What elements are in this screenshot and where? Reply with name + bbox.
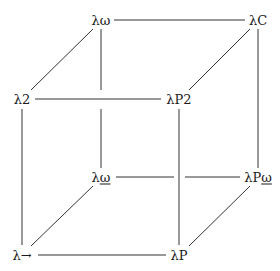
node-lambda-p-weak-omega: λPω (244, 171, 272, 184)
node-prefix: λ2 (14, 92, 31, 107)
node-lambda-arrow: λ→ (12, 249, 31, 262)
node-suffix: ω (100, 13, 111, 28)
node-prefix: λP (171, 248, 188, 263)
edge-lw-l2 (31, 29, 93, 90)
node-prefix: λ→ (12, 248, 31, 263)
edge-lPwu-lP (189, 186, 250, 246)
node-prefix: λC (249, 13, 267, 28)
node-lambda-p: λP (171, 249, 188, 262)
node-lambda-weak-omega: λω (92, 171, 111, 184)
node-prefix: λP (244, 170, 261, 185)
node-lambda-p2: λP2 (166, 93, 191, 106)
edge-lC-lP2 (189, 29, 250, 90)
node-lambda-2: λ2 (14, 93, 31, 106)
edge-lwu-lto (31, 186, 93, 246)
node-prefix: λP2 (166, 92, 191, 107)
cube-edges (0, 0, 280, 271)
node-lambda-c: λC (249, 14, 267, 27)
node-lambda-omega: λω (92, 14, 111, 27)
node-suffix-underlined: ω (261, 170, 272, 185)
node-suffix-underlined: ω (100, 170, 111, 185)
